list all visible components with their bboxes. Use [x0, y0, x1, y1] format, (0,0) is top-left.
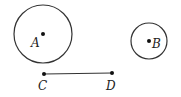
circle-a-group: A	[14, 5, 72, 63]
center-point-b	[147, 39, 151, 43]
segment-cd	[44, 73, 112, 74]
center-point-a	[41, 32, 45, 36]
label-d: D	[105, 79, 116, 93]
point-c	[42, 72, 46, 76]
geometry-figure: A B C D	[0, 0, 181, 97]
circle-b-group: B	[131, 23, 167, 59]
label-c: C	[38, 79, 47, 93]
label-a: A	[30, 36, 40, 50]
point-d	[110, 71, 114, 75]
segment-cd-group: C D	[38, 71, 116, 93]
label-b: B	[151, 37, 161, 51]
